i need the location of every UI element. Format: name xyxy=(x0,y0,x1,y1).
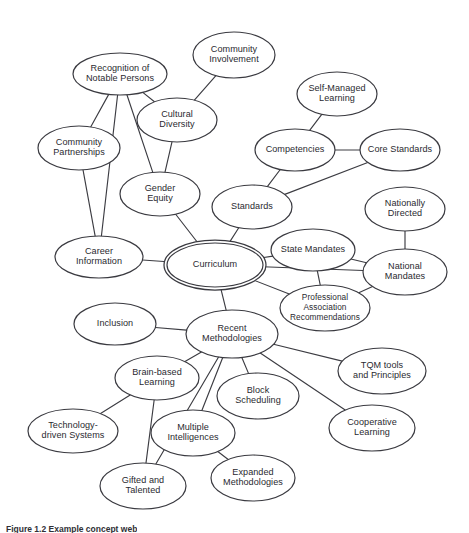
node-label-brain-based-learning: Brain-basedLearning xyxy=(132,367,182,387)
edge-curriculum-to-professional-association xyxy=(252,279,290,294)
node-nationally-directed[interactable]: NationallyDirected xyxy=(365,187,445,231)
edge-community-involvement-to-cultural-diversity xyxy=(194,76,216,101)
node-gender-equity[interactable]: GenderEquity xyxy=(120,172,200,216)
node-label-cultural-diversity: CulturalDiversity xyxy=(159,109,195,129)
node-cultural-diversity[interactable]: CulturalDiversity xyxy=(137,98,217,142)
node-standards[interactable]: Standards xyxy=(212,185,292,229)
node-competencies[interactable]: Competencies xyxy=(255,129,335,171)
node-tqm-tools[interactable]: TQM toolsand Principles xyxy=(338,348,426,394)
node-label-gender-equity: GenderEquity xyxy=(145,183,176,203)
edge-self-managed-learning-to-competencies xyxy=(310,114,322,130)
edge-recent-methodologies-to-tqm-tools xyxy=(274,344,343,361)
node-national-mandates[interactable]: NationalMandates xyxy=(363,249,447,295)
node-cooperative-learning[interactable]: CooperativeLearning xyxy=(329,405,415,451)
node-core-standards[interactable]: Core Standards xyxy=(360,129,440,171)
node-label-cooperative-learning: CooperativeLearning xyxy=(347,417,397,437)
nodes-layer: CurriculumRecognition ofNotable PersonsC… xyxy=(28,32,447,509)
node-label-gifted-and-talented: Gifted andTalented xyxy=(122,475,164,495)
node-label-tqm-tools: TQM toolsand Principles xyxy=(353,360,411,380)
edge-brain-based-learning-to-technology-driven-systems xyxy=(101,395,131,414)
edge-recent-methodologies-to-inclusion xyxy=(155,327,186,330)
edge-national-mandates-to-professional-association xyxy=(359,287,373,293)
node-professional-association[interactable]: ProfessionalAssociationRecommendations xyxy=(280,285,370,331)
node-multiple-intelligences[interactable]: MultipleIntelligences xyxy=(151,410,235,456)
node-self-managed-learning[interactable]: Self-ManagedLearning xyxy=(297,72,377,116)
node-expanded-methodologies[interactable]: ExpandedMethodologies xyxy=(211,455,295,501)
concept-web-figure: CurriculumRecognition ofNotable PersonsC… xyxy=(0,0,469,533)
node-label-national-mandates: NationalMandates xyxy=(385,261,426,281)
node-state-mandates[interactable]: State Mandates xyxy=(271,229,355,271)
edge-competencies-to-standards xyxy=(267,170,280,187)
edge-state-mandates-to-professional-association xyxy=(317,271,320,285)
edge-recent-methodologies-to-brain-based-learning xyxy=(185,352,201,362)
node-community-involvement[interactable]: CommunityInvolvement xyxy=(193,32,275,78)
node-label-competencies: Competencies xyxy=(266,144,325,154)
edge-state-mandates-to-national-mandates xyxy=(351,259,367,263)
figure-caption: Figure 1.2 Example concept web xyxy=(6,524,137,533)
node-gifted-and-talented[interactable]: Gifted andTalented xyxy=(100,463,186,509)
edge-multiple-intelligences-to-expanded-methodologies xyxy=(218,452,228,460)
node-recognition[interactable]: Recognition ofNotable Persons xyxy=(73,53,167,95)
node-recent-methodologies[interactable]: RecentMethodologies xyxy=(186,310,278,358)
node-curriculum[interactable]: Curriculum xyxy=(164,240,266,290)
node-label-core-standards: Core Standards xyxy=(368,144,433,154)
edge-curriculum-to-gender-equity xyxy=(176,214,199,244)
edge-recognition-to-cultural-diversity xyxy=(143,92,155,101)
node-community-partnerships[interactable]: CommunityPartnerships xyxy=(38,126,120,170)
node-label-community-involvement: CommunityInvolvement xyxy=(209,44,259,64)
node-brain-based-learning[interactable]: Brain-basedLearning xyxy=(115,356,199,400)
node-label-standards: Standards xyxy=(231,201,273,211)
node-label-recognition: Recognition ofNotable Persons xyxy=(86,63,154,83)
node-block-scheduling[interactable]: BlockScheduling xyxy=(217,373,299,419)
edge-recent-methodologies-to-block-scheduling xyxy=(242,357,249,373)
node-label-inclusion: Inclusion xyxy=(97,318,133,328)
concept-web-canvas: CurriculumRecognition ofNotable PersonsC… xyxy=(0,0,469,533)
edge-recognition-to-community-partnerships xyxy=(91,94,109,127)
node-inclusion[interactable]: Inclusion xyxy=(74,303,156,345)
edge-cultural-diversity-to-gender-equity xyxy=(165,142,172,172)
edge-curriculum-to-career-information xyxy=(143,260,168,262)
node-career-information[interactable]: CareerInformation xyxy=(55,236,143,278)
node-label-curriculum: Curriculum xyxy=(193,259,237,269)
node-label-nationally-directed: NationallyDirected xyxy=(385,198,426,218)
node-label-state-mandates: State Mandates xyxy=(281,244,346,254)
node-technology-driven-systems[interactable]: Technology-driven Systems xyxy=(28,409,118,453)
node-label-technology-driven-systems: Technology-driven Systems xyxy=(42,420,105,440)
edge-community-partnerships-to-career-information xyxy=(83,170,95,236)
node-label-community-partnerships: CommunityPartnerships xyxy=(53,137,105,157)
